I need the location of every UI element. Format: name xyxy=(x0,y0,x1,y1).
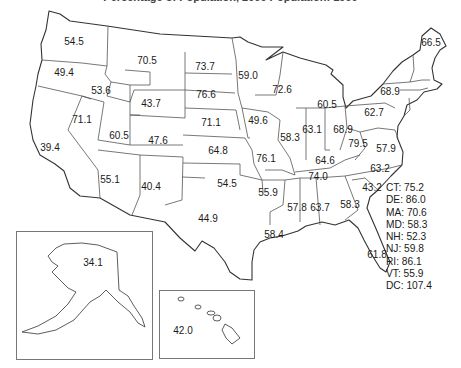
legend-row-ma: MA: 70.6 xyxy=(386,207,432,219)
state-label-mi: 60.5 xyxy=(317,100,336,110)
state-label-wv: 79.5 xyxy=(348,139,367,149)
state-label-mt: 70.5 xyxy=(137,56,156,66)
small-states-legend: CT: 75.2 DE: 86.0 MA: 70.6 MD: 58.3 NH: … xyxy=(386,182,432,293)
state-label-la: 58.4 xyxy=(264,230,283,240)
state-label-tn: 74.0 xyxy=(308,172,327,182)
legend-row-dc: DC: 107.4 xyxy=(386,280,432,292)
state-label-in: 63.1 xyxy=(302,125,321,135)
state-label-az: 55.1 xyxy=(100,175,119,185)
state-label-sd: 76.6 xyxy=(196,90,215,100)
state-label-tx: 44.9 xyxy=(198,214,217,224)
state-label-il: 58.3 xyxy=(280,133,299,143)
state-label-ak: 34.1 xyxy=(83,258,102,268)
state-label-ok: 54.5 xyxy=(217,179,236,189)
state-label-nc: 63.2 xyxy=(370,164,389,174)
state-label-va: 57.9 xyxy=(376,144,395,154)
state-label-me: 66.5 xyxy=(421,38,440,48)
state-label-nd: 73.7 xyxy=(195,62,214,72)
state-label-wa: 54.5 xyxy=(64,37,83,47)
state-label-sc: 43.2 xyxy=(362,183,381,193)
legend-row-de: DE: 86.0 xyxy=(386,194,432,206)
state-label-mn: 59.0 xyxy=(238,71,257,81)
state-label-ar: 55.9 xyxy=(258,188,277,198)
state-label-ms: 57.8 xyxy=(287,203,306,213)
legend-row-ct: CT: 75.2 xyxy=(386,182,432,194)
state-label-mo: 76.1 xyxy=(256,154,275,164)
state-label-ky: 64.6 xyxy=(315,156,334,166)
state-label-or: 49.4 xyxy=(54,68,73,78)
state-label-ny: 68.9 xyxy=(380,87,399,97)
state-label-fl: 61.8 xyxy=(367,250,386,260)
state-label-wy: 43.7 xyxy=(141,99,160,109)
legend-row-vt: VT: 55.9 xyxy=(386,268,432,280)
state-label-ga: 58.3 xyxy=(340,200,359,210)
state-label-co: 47.6 xyxy=(148,136,167,146)
state-label-ut: 60.5 xyxy=(109,131,128,141)
state-label-nm: 40.4 xyxy=(141,182,160,192)
state-label-ca: 39.4 xyxy=(40,143,59,153)
state-label-pa: 62.7 xyxy=(364,108,383,118)
state-label-hi: 42.0 xyxy=(173,326,192,336)
state-label-nv: 71.1 xyxy=(72,115,91,125)
state-label-ne: 71.1 xyxy=(201,118,220,128)
state-label-ia: 49.6 xyxy=(248,116,267,126)
legend-row-ri: RI: 86.1 xyxy=(386,256,432,268)
state-label-al: 63.7 xyxy=(310,203,329,213)
state-label-ks: 64.8 xyxy=(208,146,227,156)
legend-row-nj: NJ: 59.8 xyxy=(386,243,432,255)
state-label-id: 53.6 xyxy=(91,86,110,96)
state-label-wi: 72.6 xyxy=(272,85,291,95)
state-label-oh: 68.9 xyxy=(333,125,352,135)
legend-row-md: MD: 58.3 xyxy=(386,219,432,231)
legend-row-nh: NH: 52.3 xyxy=(386,231,432,243)
